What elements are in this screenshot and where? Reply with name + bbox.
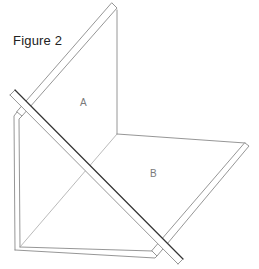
panel-a-label: A xyxy=(80,97,87,108)
panel-b-label: B xyxy=(150,168,157,179)
panel-b xyxy=(15,134,249,258)
figure-title: Figure 2 xyxy=(13,33,62,48)
crossing-rod xyxy=(10,90,183,264)
